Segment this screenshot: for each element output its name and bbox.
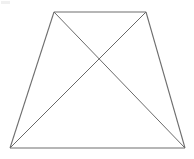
trapezoid-diagram <box>0 0 194 159</box>
figure-canvas <box>0 0 194 159</box>
diagonal-tr-bl <box>10 12 146 148</box>
left-edge <box>10 12 54 148</box>
